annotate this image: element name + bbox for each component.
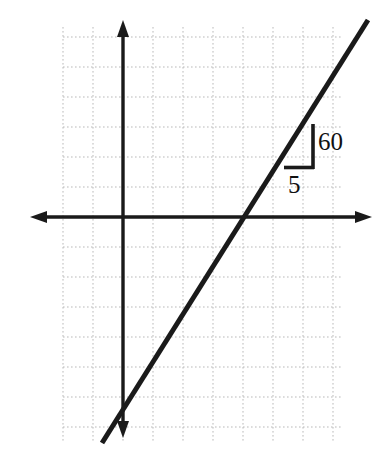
plotted-line xyxy=(102,20,368,443)
graph-figure: 60 5 xyxy=(0,0,381,461)
y-axis-up-arrow-icon xyxy=(117,20,129,37)
y-axis xyxy=(117,20,129,438)
x-axis xyxy=(30,211,372,223)
coordinate-plane-svg: 60 5 xyxy=(0,0,381,461)
x-axis-left-arrow-icon xyxy=(30,211,47,223)
rise-label: 60 xyxy=(318,128,343,155)
grid-lines xyxy=(63,27,341,441)
run-label: 5 xyxy=(288,171,301,198)
x-axis-right-arrow-icon xyxy=(355,211,372,223)
line-series-segment xyxy=(102,20,368,443)
y-axis-down-arrow-icon xyxy=(117,421,129,438)
